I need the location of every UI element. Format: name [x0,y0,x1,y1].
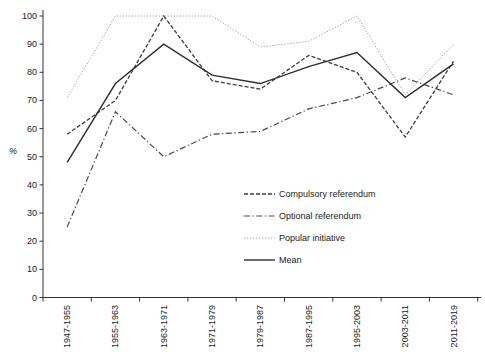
series-mean [67,44,453,162]
y-tick-label: 50 [27,152,37,162]
legend-item-compulsory-referendum: Compulsory referendum [244,183,376,205]
line-chart-canvas: 01020304050607080901001947-19551955-1963… [0,0,485,356]
legend-line-sample-icon [244,211,275,221]
x-tick-label: 2003-2011 [400,305,410,347]
legend-line-sample-icon [244,255,275,265]
x-tick-label: 1995-2003 [352,305,362,348]
chart-figure: 01020304050607080901001947-19551955-1963… [0,0,485,356]
series-popular-initiative [67,16,453,98]
legend-item-mean: Mean [244,249,376,271]
x-tick-label: 1987-1995 [304,305,314,348]
legend-label: Popular initiative [279,234,345,243]
y-tick-label: 100 [22,11,37,21]
legend: Compulsory referendum Optional referendu… [244,183,376,271]
legend-label: Compulsory referendum [279,190,376,199]
y-tick-label: 70 [27,95,37,105]
x-tick-label: 1947-1955 [62,305,72,348]
y-tick-label: 60 [27,124,37,134]
y-tick-label: 80 [27,67,37,77]
x-tick-label: 1963-1971 [159,305,169,348]
legend-item-popular-initiative: Popular initiative [244,227,376,249]
legend-line-sample-icon [244,189,275,199]
y-axis-title: % [9,146,17,156]
y-tick-label: 20 [27,236,37,246]
y-tick-label: 40 [27,180,37,190]
legend-label: Mean [279,256,302,265]
x-tick-label: 1955-1963 [110,305,120,348]
y-tick-label: 0 [32,293,37,303]
x-tick-label: 2011-2019 [449,305,459,347]
legend-label: Optional referendum [279,212,361,221]
y-tick-label: 30 [27,208,37,218]
x-tick-label: 1971-1979 [207,305,217,348]
y-tick-label: 10 [27,264,37,274]
legend-item-optional-referendum: Optional referendum [244,205,376,227]
x-tick-label: 1979-1987 [255,305,265,348]
legend-line-sample-icon [244,233,275,243]
y-tick-label: 90 [27,39,37,49]
